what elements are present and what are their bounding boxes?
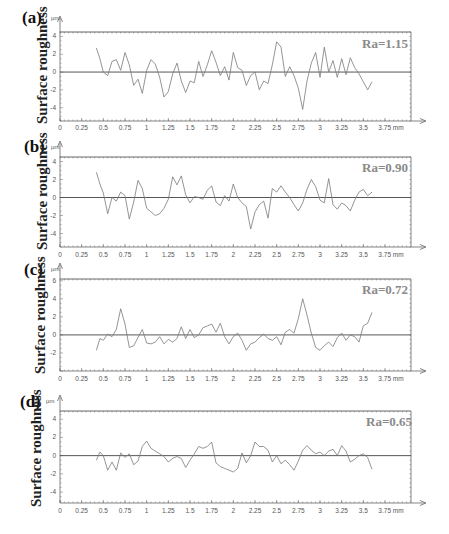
x-tick-label: 0 [58,507,62,514]
x-tick-label: 2.75 [292,507,305,514]
y-tick-label: 4 [46,415,56,422]
y-axis-label: Surface roughness [28,389,45,507]
x-tick-label: 1 [145,507,149,514]
x-tick-label: 3 [318,507,322,514]
ra-annotation: Ra=0.65 [366,414,412,430]
x-tick-label: 3.25 [335,507,348,514]
x-tick-label: 1.75 [205,507,218,514]
y-tick-label: 0 [46,452,56,459]
y-tick-label: -4 [46,488,56,495]
x-tick-label: 2.25 [249,507,262,514]
x-tick-label: 1.5 [185,507,194,514]
x-tick-label: 1.25 [162,507,175,514]
x-tick-label: 2 [232,507,236,514]
x-tick-label: 0.75 [119,507,132,514]
x-tick-label: 2.5 [272,507,281,514]
panel-d: (d) µm Surface roughness Ra=0.65 420-2-4… [0,0,449,534]
y-tick-label: -2 [46,470,56,477]
x-tick-label: 0.5 [99,507,108,514]
x-tick-label: 0.25 [75,507,88,514]
y-unit-label: µm [46,398,54,404]
x-tick-label: 3.5 [359,507,368,514]
profile-chart-d [0,0,449,534]
x-tick-label: 3.75 mm [378,507,403,514]
y-tick-label: 2 [46,433,56,440]
